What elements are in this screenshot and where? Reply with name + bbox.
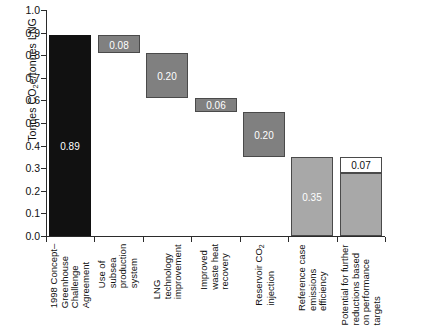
x-axis-label-line: recovery bbox=[220, 244, 231, 290]
y-axis-tick-label: 0.5 bbox=[2, 118, 40, 128]
y-axis-tick bbox=[41, 33, 47, 34]
bar: 0.06 bbox=[195, 98, 237, 112]
x-axis-label-line: targets bbox=[372, 245, 383, 326]
x-axis-label-line: Reference case bbox=[297, 244, 308, 311]
x-axis-tick bbox=[143, 237, 144, 242]
x-axis-label-line: production bbox=[118, 244, 129, 288]
bar: 0.08 bbox=[98, 35, 140, 53]
y-axis-tick bbox=[41, 146, 47, 147]
y-axis-tick-label-wrap: 0.1 bbox=[0, 208, 40, 218]
y-axis-tick bbox=[41, 191, 47, 192]
x-axis-tick bbox=[288, 237, 289, 242]
x-axis-label-subscript: 2 bbox=[257, 244, 264, 248]
y-axis-tick bbox=[41, 213, 47, 214]
y-axis-tick-label-wrap: 0.4 bbox=[0, 141, 40, 151]
bar-value-label: 0.08 bbox=[99, 40, 139, 51]
y-axis-tick bbox=[41, 78, 47, 79]
y-axis-tick-label: 0.8 bbox=[2, 50, 40, 60]
x-axis-label: Reservoir CO2injection bbox=[240, 244, 288, 334]
x-axis-label-text: Potential for furtherreductions basedon … bbox=[340, 245, 382, 326]
bar: 0.20 bbox=[146, 53, 188, 98]
y-axis-tick-label-wrap: 1.0 bbox=[0, 5, 40, 15]
x-axis-label-line: efficiency bbox=[318, 244, 329, 311]
y-axis-tick-label-wrap: 0.2 bbox=[0, 186, 40, 196]
y-axis-tick-label: 0.1 bbox=[2, 208, 40, 218]
bar: 0.89 bbox=[49, 35, 91, 236]
bar-value-label: 0.89 bbox=[50, 141, 90, 152]
y-axis-tick-label: 1.0 bbox=[2, 5, 40, 15]
x-axis-label-text: LNGtechnologyimprovement bbox=[152, 244, 184, 299]
y-axis-tick-label: 0.4 bbox=[2, 141, 40, 151]
x-axis-label-line: Improved bbox=[199, 244, 210, 290]
y-axis-tick-label-wrap: 0.3 bbox=[0, 163, 40, 173]
x-axis-label-line: 1998 Concept– bbox=[49, 244, 60, 308]
y-axis-tick-label-wrap: 0.6 bbox=[0, 95, 40, 105]
x-axis-label-line: Reservoir CO2 bbox=[254, 244, 266, 305]
x-axis-label-line: improvement bbox=[173, 244, 184, 299]
y-axis-tick-label-wrap: 0.7 bbox=[0, 73, 40, 83]
y-axis-tick-label-wrap: 0.0 bbox=[0, 231, 40, 241]
y-axis-tick-label: 0.9 bbox=[2, 28, 40, 38]
y-axis-tick bbox=[41, 100, 47, 101]
x-axis-tick bbox=[240, 237, 241, 242]
y-axis-tick bbox=[41, 55, 47, 56]
x-axis-label: Use ofsubseaproductionsystem bbox=[94, 244, 142, 334]
x-axis-label-line: Potential for further bbox=[340, 245, 351, 326]
y-axis-tick bbox=[41, 168, 47, 169]
bar: 0.35 bbox=[291, 157, 333, 236]
bar-value-label: 0.20 bbox=[244, 130, 284, 141]
x-axis-label-line: Challenge bbox=[70, 244, 81, 308]
x-axis-label-line: injection bbox=[265, 244, 276, 305]
bar-value-label: 0.20 bbox=[147, 71, 187, 82]
y-axis-tick-label-wrap: 0.9 bbox=[0, 28, 40, 38]
x-axis-label: LNGtechnologyimprovement bbox=[143, 244, 191, 334]
y-axis-tick-label: 0.6 bbox=[2, 95, 40, 105]
x-axis-label: 1998 Concept–GreenhouseChallengeAgreemen… bbox=[46, 244, 94, 334]
y-axis-tick bbox=[41, 10, 47, 11]
x-axis-tick bbox=[46, 237, 47, 242]
x-axis-line bbox=[46, 236, 385, 237]
y-axis-title-subscript: 2 bbox=[31, 84, 40, 88]
x-axis-label-text: Improvedwaste heatrecovery bbox=[199, 244, 231, 290]
x-axis-tick bbox=[94, 237, 95, 242]
y-axis-tick-label-wrap: 0.8 bbox=[0, 50, 40, 60]
bar-value-label: 0.06 bbox=[196, 100, 236, 111]
y-axis-tick-label: 0.0 bbox=[2, 231, 40, 241]
x-axis-label-line: Use of bbox=[97, 244, 108, 288]
x-axis-tick bbox=[191, 237, 192, 242]
x-axis-label-text: Use ofsubseaproductionsystem bbox=[97, 244, 139, 288]
bar-value-label: 0.35 bbox=[292, 192, 332, 203]
bar: 0.07 bbox=[340, 157, 382, 173]
y-axis-tick-label: 0.3 bbox=[2, 163, 40, 173]
y-axis-tick-label-wrap: 0.5 bbox=[0, 118, 40, 128]
x-axis-label: Improvedwaste heatrecovery bbox=[191, 244, 239, 334]
y-axis-tick-label: 0.2 bbox=[2, 186, 40, 196]
y-axis-tick-label: 0.7 bbox=[2, 73, 40, 83]
bar-value-label: 0.07 bbox=[341, 160, 381, 171]
x-axis-label: Reference caseemissionsefficiency bbox=[288, 244, 336, 334]
x-axis-label-line: Agreement bbox=[81, 244, 92, 308]
bar: 0.20 bbox=[243, 112, 285, 157]
x-axis-tick bbox=[337, 237, 338, 242]
x-axis-label-line: on performance bbox=[361, 245, 372, 326]
x-axis-label-text: Reservoir CO2injection bbox=[254, 244, 276, 305]
x-axis-label-line: system bbox=[129, 244, 140, 288]
x-axis-label-text: 1998 Concept–GreenhouseChallengeAgreemen… bbox=[49, 244, 91, 308]
waterfall-chart: Tonnes CO2e/tonnes LNG 0.00.10.20.30.40.… bbox=[0, 0, 428, 336]
x-axis-label-text: Reference caseemissionsefficiency bbox=[297, 244, 329, 311]
x-axis-tick bbox=[385, 237, 386, 242]
y-axis-tick bbox=[41, 123, 47, 124]
x-axis-label: Potential for furtherreductions basedon … bbox=[337, 244, 385, 334]
bar-segment-base bbox=[340, 173, 382, 236]
x-axis-label-line: LNG bbox=[152, 244, 163, 299]
